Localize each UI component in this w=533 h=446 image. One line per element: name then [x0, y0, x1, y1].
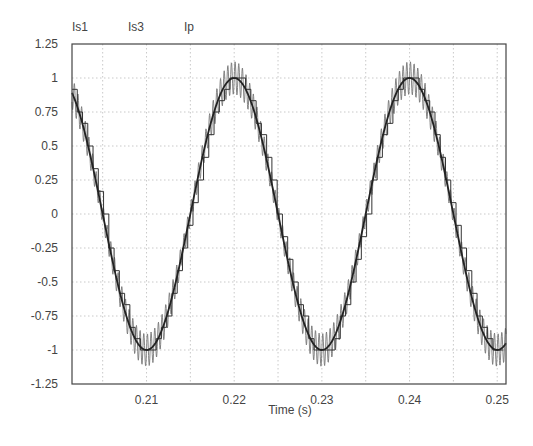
y-tick-label: 1.25	[35, 37, 59, 51]
y-tick-label: -0.75	[31, 309, 59, 323]
x-tick-label: 0.23	[310, 393, 334, 407]
y-tick-label: -1.25	[31, 377, 59, 391]
y-tick-label: -1	[47, 343, 58, 357]
x-tick-label: 0.25	[486, 393, 510, 407]
chart-plot: 1.2510.750.50.250-0.25-0.5-0.75-1-1.25 0…	[0, 0, 533, 446]
y-tick-label: -0.5	[37, 275, 58, 289]
y-tick-label: 0.75	[35, 105, 59, 119]
x-tick-label: 0.21	[135, 393, 159, 407]
x-axis-label: Time (s)	[268, 403, 312, 417]
y-axis-ticks: 1.2510.750.50.250-0.25-0.5-0.75-1-1.25	[31, 37, 59, 391]
y-tick-label: 0	[51, 207, 58, 221]
y-tick-label: 1	[51, 71, 58, 85]
x-tick-label: 0.22	[223, 393, 247, 407]
y-tick-label: 0.5	[41, 139, 58, 153]
y-tick-label: 0.25	[35, 173, 59, 187]
x-axis-ticks: 0.210.220.230.240.25	[135, 393, 509, 407]
y-tick-label: -0.25	[31, 241, 59, 255]
x-tick-label: 0.24	[398, 393, 422, 407]
